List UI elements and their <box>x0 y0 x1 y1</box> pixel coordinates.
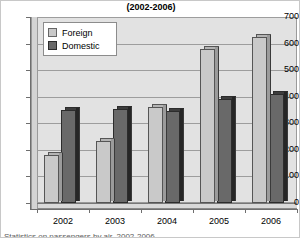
chart-legend: Foreign Domestic <box>43 22 117 56</box>
gridline-700 <box>37 17 297 18</box>
chart-screenshot: (2002-2006) 7006005004003002001000 20022… <box>0 0 300 238</box>
bar-front-face <box>96 141 111 203</box>
x-tick-mark-2006 <box>245 209 246 213</box>
bar-side-face <box>128 107 132 201</box>
bar-side-face <box>59 153 63 201</box>
bar-side-face <box>267 35 271 201</box>
bar-side-face <box>163 105 167 201</box>
x-tick-mark-2005 <box>193 209 194 213</box>
y-tick-label-600: 600 <box>273 39 299 48</box>
legend-label-domestic: Domestic <box>62 41 100 51</box>
bar-domestic-2004 <box>165 111 180 203</box>
bar-domestic-2005 <box>217 99 232 203</box>
y-tick-label-500: 500 <box>273 65 299 74</box>
figure-caption: Statistics on passengers by air, 2002-20… <box>4 232 155 238</box>
bar-front-face <box>165 111 180 203</box>
bar-foreign-2004 <box>148 107 163 203</box>
bar-foreign-2003 <box>96 141 111 203</box>
bar-front-face <box>61 110 76 203</box>
bar-domestic-2006 <box>269 94 284 203</box>
y-tick-mark-200 <box>26 150 31 151</box>
bar-side-face <box>111 139 115 201</box>
bar-front-face <box>217 99 232 203</box>
bar-foreign-2002 <box>44 155 59 203</box>
bar-front-face <box>148 107 163 203</box>
bar-side-face <box>215 47 219 201</box>
legend-swatch-foreign-icon <box>48 28 57 37</box>
legend-item-domestic: Domestic <box>48 39 112 52</box>
bar-domestic-2003 <box>113 109 128 203</box>
bar-foreign-2005 <box>200 49 215 203</box>
x-tick-label-2006: 2006 <box>245 216 297 226</box>
x-tick-label-2005: 2005 <box>193 216 245 226</box>
x-tick-mark-2003 <box>89 209 90 213</box>
y-tick-mark-500 <box>26 70 31 71</box>
x-tick-mark-2002 <box>37 209 38 213</box>
legend-label-foreign: Foreign <box>62 28 93 38</box>
legend-swatch-domestic-icon <box>48 41 57 50</box>
y-tick-label-700: 700 <box>273 12 299 21</box>
chart-title: (2002-2006) <box>1 2 300 12</box>
y-tick-mark-600 <box>26 44 31 45</box>
y-tick-mark-100 <box>26 176 31 177</box>
y-tick-mark-300 <box>26 123 31 124</box>
y-tick-mark-400 <box>26 97 31 98</box>
bar-side-face <box>76 108 80 201</box>
x-tick-label-2003: 2003 <box>89 216 141 226</box>
bar-front-face <box>113 109 128 203</box>
gridline-0 <box>37 203 297 204</box>
bar-side-face <box>284 92 288 201</box>
bar-front-face <box>200 49 215 203</box>
bar-side-face <box>232 97 236 201</box>
x-tick-mark-end <box>297 209 298 213</box>
bar-domestic-2002 <box>61 110 76 203</box>
bar-foreign-2006 <box>252 37 267 203</box>
y-tick-mark-0 <box>26 203 31 204</box>
bar-front-face <box>252 37 267 203</box>
bar-side-face <box>180 109 184 201</box>
legend-item-foreign: Foreign <box>48 26 112 39</box>
bar-front-face <box>44 155 59 203</box>
y-tick-mark-700 <box>26 17 31 18</box>
x-tick-mark-2004 <box>141 209 142 213</box>
bar-front-face <box>269 94 284 203</box>
x-tick-label-2004: 2004 <box>141 216 193 226</box>
x-tick-label-2002: 2002 <box>37 216 89 226</box>
